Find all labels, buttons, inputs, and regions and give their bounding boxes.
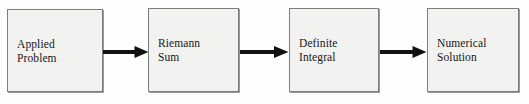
flowchart-node-riemann-sum[interactable]: Riemann Sum bbox=[148, 8, 239, 92]
flowchart-node-label: Numerical Solution bbox=[437, 36, 486, 64]
flowchart-node-numerical-solution[interactable]: Numerical Solution bbox=[427, 8, 519, 92]
flowchart-node-applied-problem[interactable]: Applied Problem bbox=[7, 9, 103, 92]
flowchart-node-definite-integral[interactable]: Definite Integral bbox=[289, 8, 379, 92]
arrow-right-icon bbox=[103, 44, 149, 60]
flowchart-node-label: Applied Problem bbox=[17, 37, 57, 65]
arrow-right-icon bbox=[380, 44, 427, 60]
flowchart-node-label: Riemann Sum bbox=[158, 36, 200, 64]
flowchart-diagram: Applied Problem Riemann Sum Definite Int… bbox=[0, 0, 529, 104]
flowchart-node-label: Definite Integral bbox=[299, 36, 337, 64]
scan-artifact-band bbox=[0, 93, 529, 104]
arrow-right-icon bbox=[240, 44, 289, 60]
